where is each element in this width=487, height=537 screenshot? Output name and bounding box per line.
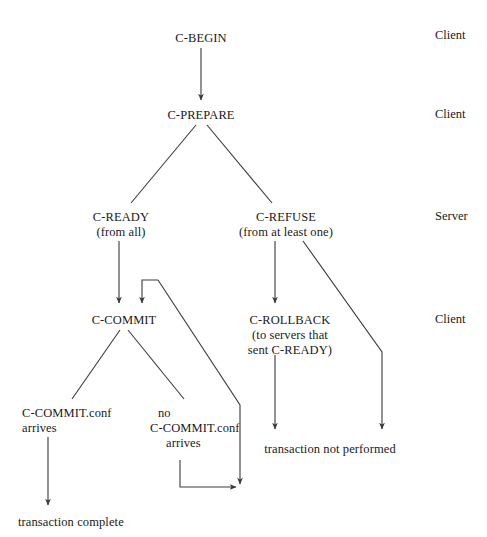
node-no-commit-conf-line2: C-COMMIT.conf (150, 421, 240, 436)
role-label-client-commit: Client (435, 312, 466, 327)
edge-loop-back-to-commit (142, 280, 158, 303)
role-label-server: Server (435, 209, 468, 224)
edge-commit-to-timeout-line (158, 280, 240, 484)
node-commit-conf-arrives-line1: C-COMMIT.conf (22, 406, 112, 421)
node-c-begin: C-BEGIN (175, 31, 226, 46)
node-no-commit-conf-line1: no (158, 406, 171, 421)
flow-diagram: C-BEGIN C-PREPARE C-READY (from all) C-R… (0, 0, 487, 537)
role-label-client-begin: Client (435, 28, 466, 43)
node-c-rollback-qualifier-line1: (to servers that (252, 328, 328, 343)
node-c-refuse-qualifier: (from at least one) (239, 225, 333, 240)
node-no-commit-conf-line3: arrives (166, 436, 201, 451)
node-c-refuse: C-REFUSE (256, 210, 316, 225)
node-c-commit: C-COMMIT (92, 313, 157, 328)
diagram-edges (0, 0, 487, 537)
node-c-prepare: C-PREPARE (167, 108, 234, 123)
node-c-ready: C-READY (93, 210, 149, 225)
node-commit-conf-arrives-line2: arrives (22, 421, 57, 436)
edge-no-conf-to-join (180, 460, 236, 487)
role-label-client-prepare: Client (435, 107, 466, 122)
node-c-ready-qualifier: (from all) (96, 225, 145, 240)
node-c-rollback: C-ROLLBACK (250, 313, 331, 328)
edge-prepare-to-ready (131, 125, 196, 203)
node-c-rollback-qualifier-line2: sent C-READY) (248, 343, 332, 358)
edge-commit-to-no-conf (128, 330, 184, 399)
node-transaction-complete: transaction complete (18, 515, 124, 530)
edge-commit-to-conf (72, 330, 120, 399)
node-transaction-not-performed: transaction not performed (264, 442, 396, 457)
edge-prepare-to-refuse (207, 125, 272, 203)
